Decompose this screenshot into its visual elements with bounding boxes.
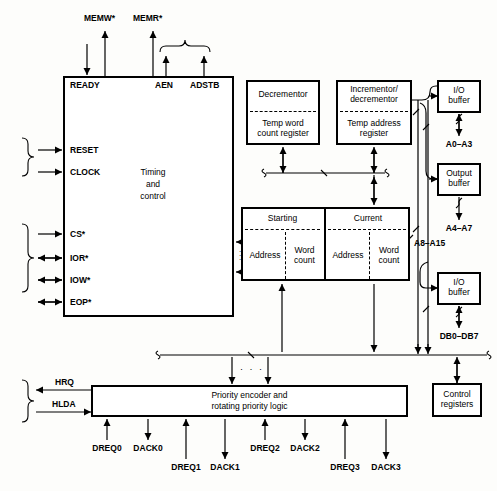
- signal-label-dack2: DACK2: [281, 444, 329, 453]
- decrementor-sub-line2: count register: [246, 128, 320, 138]
- io-buffer-2-line2: buffer: [437, 287, 481, 297]
- timing-block-label-line3: control: [128, 192, 178, 201]
- incrementor-title-line1: Incrementor/: [336, 84, 412, 94]
- pin-label-ready: READY: [70, 81, 100, 90]
- signal-label-dack1: DACK1: [201, 463, 249, 472]
- current-cell-divider: [369, 232, 370, 279]
- bus-label-a8-a15: A8–A15: [414, 239, 445, 248]
- control-registers-line1: Control: [432, 389, 482, 399]
- io-buffer-1-line2: buffer: [437, 95, 481, 105]
- incrementor-sub-line1: Temp address: [336, 118, 412, 128]
- bus-label-db0-db7: DB0–DB7: [428, 332, 490, 341]
- register-col-title-current: Current: [326, 213, 410, 223]
- starting-divider: [245, 229, 320, 230]
- starting-cell-divider: [285, 232, 286, 279]
- bus-label-a4-a7: A4–A7: [432, 224, 486, 233]
- current-divider: [328, 229, 406, 230]
- control-registers-line2: registers: [432, 399, 482, 409]
- signal-label-hrq: HRQ: [55, 378, 74, 387]
- pin-label-adstb: ADSTB: [190, 81, 219, 90]
- register-cell-current-address: Address: [328, 250, 368, 260]
- signal-label-memw: MEMW*: [84, 14, 115, 23]
- signal-label-dack0: DACK0: [124, 444, 172, 453]
- pin-label-cs: CS*: [70, 230, 85, 239]
- signal-label-hlda: HLDA: [52, 400, 76, 409]
- output-buffer-line1: Output: [437, 168, 481, 178]
- priority-encoder-line2: rotating priority logic: [91, 401, 408, 411]
- io-buffer-2-line1: I/O: [437, 277, 481, 287]
- timing-block-label-line1: Timing: [128, 168, 178, 177]
- incrementor-title-line2: decrementor: [336, 94, 412, 104]
- pin-label-clock: CLOCK: [70, 168, 100, 177]
- decrementor-title: Decrementor: [246, 89, 320, 99]
- bus-ellipsis: · · ·: [240, 364, 264, 374]
- pin-label-aen: AEN: [155, 81, 173, 90]
- decrementor-sub-line1: Temp word: [246, 118, 320, 128]
- signal-label-memr: MEMR*: [133, 14, 162, 23]
- signal-label-dack3: DACK3: [362, 463, 410, 472]
- pin-label-reset: RESET: [70, 146, 98, 155]
- bus-label-a0-a3: A0–A3: [432, 140, 486, 149]
- incrementor-divider: [340, 111, 408, 112]
- register-col-title-starting: Starting: [241, 213, 324, 223]
- register-cell-current-wordcount-line2: count: [372, 255, 406, 265]
- output-buffer-line2: buffer: [437, 178, 481, 188]
- pin-label-iow: IOW*: [70, 276, 90, 285]
- timing-block-label-line2: and: [128, 180, 178, 189]
- decrementor-divider: [250, 111, 316, 112]
- pin-label-eop: EOP*: [70, 298, 91, 307]
- diagram-canvas: MEMW* MEMR* READY AEN ADSTB RESET CLOCK …: [0, 0, 497, 491]
- incrementor-sub-line2: register: [336, 128, 412, 138]
- priority-encoder-line1: Priority encoder and: [91, 390, 408, 400]
- pin-label-ior: IOR*: [70, 254, 88, 263]
- register-cell-current-wordcount-line1: Word: [372, 245, 406, 255]
- register-cell-starting-wordcount-line2: count: [288, 255, 321, 265]
- io-buffer-1-line1: I/O: [437, 85, 481, 95]
- register-cell-starting-wordcount-line1: Word: [288, 245, 321, 255]
- register-cell-starting-address: Address: [245, 250, 285, 260]
